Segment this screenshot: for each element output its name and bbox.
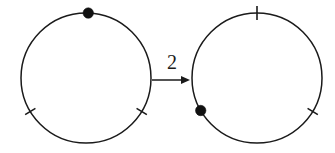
left-circle-diagram [21, 8, 151, 143]
tick-lower-right [308, 108, 318, 114]
arrow-label: 2 [167, 51, 177, 73]
tick-lower-left [25, 108, 35, 114]
filled-point-top [83, 8, 93, 18]
result-circle-outline [192, 13, 322, 143]
filled-point-lower-left [196, 105, 206, 115]
arrow-head-icon [181, 76, 190, 84]
source-circle-outline [21, 13, 151, 143]
diagram-layer [21, 6, 322, 143]
figure-canvas: 2 [0, 0, 335, 153]
right-circle-diagram [192, 6, 322, 143]
arrow-layer: 2 [152, 51, 190, 84]
circle-transformation-figure: 2 [0, 0, 335, 153]
tick-lower-right [137, 108, 147, 114]
